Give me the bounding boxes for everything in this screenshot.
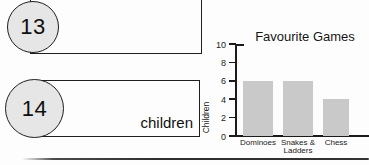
y-tick-label: 10 (207, 40, 226, 50)
section-divider-line (22, 158, 369, 161)
y-tick-mark (229, 135, 236, 137)
chart-title: Favourite Games (244, 29, 366, 44)
chart-bar (283, 81, 313, 136)
chart-bar (243, 81, 273, 136)
y-tick-mark (229, 98, 236, 100)
y-tick-label: 2 (207, 113, 226, 123)
category-label: Chess (311, 139, 361, 148)
y-tick-label: 0 (207, 132, 226, 142)
y-tick-mark (229, 117, 236, 119)
favourite-games-chart: Favourite Games Children 0246810 Dominoe… (0, 0, 369, 165)
y-tick-mark (229, 62, 236, 64)
y-tick-label: 6 (207, 76, 226, 86)
y-tick-label: 8 (207, 58, 226, 68)
y-tick-mark (229, 80, 236, 82)
chart-bar (323, 99, 349, 136)
worksheet-page: 13 children 14 Favourite Games Children … (0, 0, 369, 165)
y-tick-label: 4 (207, 95, 226, 105)
y-tick-mark (229, 43, 236, 45)
y-axis-top-cap (236, 44, 244, 46)
y-axis-line (235, 44, 237, 137)
